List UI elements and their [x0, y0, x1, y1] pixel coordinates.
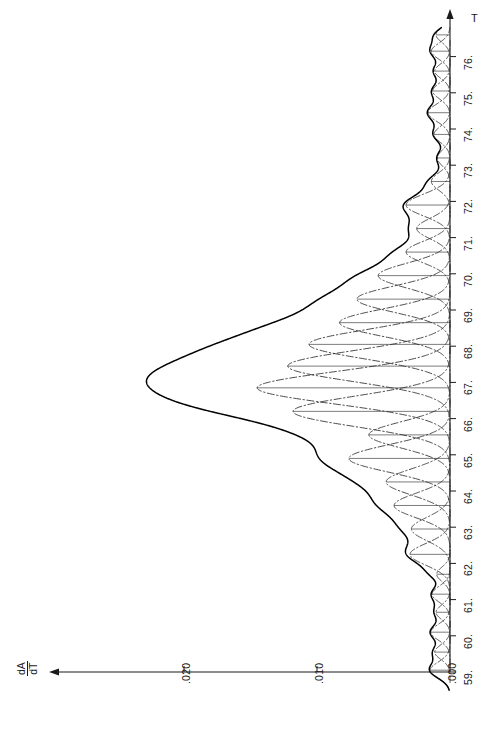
x-tick-label: 61.: [462, 597, 474, 612]
component-curves: [257, 28, 450, 690]
x-tick-label: 63.: [462, 525, 474, 540]
x-tick-label: 76.: [462, 54, 474, 69]
x-tick-label: 74.: [462, 127, 474, 142]
x-tick-label: 69.: [462, 308, 474, 323]
x-tick-label: 72.: [462, 199, 474, 214]
x-tick-label: 60.: [462, 634, 474, 649]
x-tick-label: 67.: [462, 380, 474, 395]
x-tick-label: 62.: [462, 561, 474, 576]
x-tick-label: 75.: [462, 91, 474, 106]
x-tick-label: 70.: [462, 272, 474, 287]
envelope-curve: [146, 28, 449, 690]
derivative-melting-curve-chart: T dA dT 59.60.61.62.63.64.65.66.67.68.69…: [0, 0, 491, 752]
y-axis-title-numerator: dA: [16, 661, 27, 676]
axes-group: [49, 9, 456, 676]
y-axis-title: dA dT: [16, 661, 39, 676]
y-axis-title-fraction: dA dT: [16, 661, 39, 676]
x-tick-label: 73.: [462, 163, 474, 178]
y-tick-label: .000: [446, 663, 458, 684]
x-tick-label: 64.: [462, 489, 474, 504]
x-axis-title: T: [471, 12, 478, 24]
peak-stem-lines: [257, 35, 450, 670]
x-tick-label: 68.: [462, 344, 474, 359]
y-tick-label: .010: [313, 663, 325, 684]
y-axis-title-denominator: dT: [27, 661, 39, 676]
x-tick-label: 65.: [462, 453, 474, 468]
x-tick-label: 71.: [462, 235, 474, 250]
x-tick-label: 59.: [462, 670, 474, 685]
plot-canvas: [0, 0, 491, 752]
y-tick-label: .020: [180, 663, 192, 684]
x-tick-label: 66.: [462, 416, 474, 431]
